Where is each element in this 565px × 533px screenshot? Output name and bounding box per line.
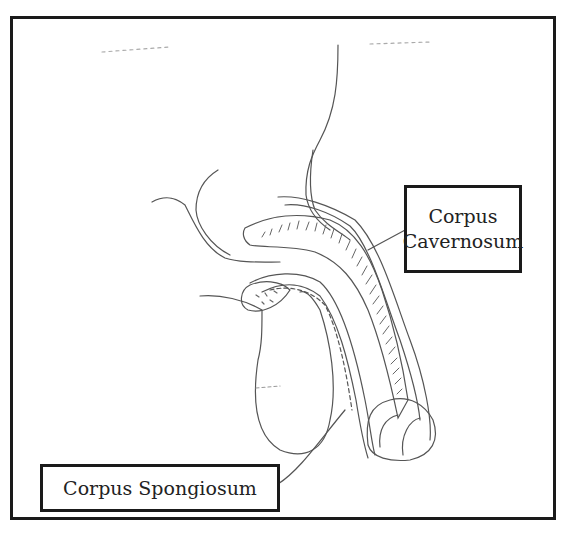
corpus-cavernosum-label: Corpus Cavernosum xyxy=(404,185,522,273)
cavernosum-leader-line xyxy=(368,229,407,250)
corpus-spongiosum-label-text: Corpus Spongiosum xyxy=(63,477,257,499)
spongiosum-leader-line xyxy=(278,410,345,484)
corpus-cavernosum-label-line1: Corpus xyxy=(428,204,497,229)
corpus-cavernosum-label-line2: Cavernosum xyxy=(403,229,524,254)
corpus-cavernosum-shape xyxy=(243,216,408,418)
corpus-spongiosum-label: Corpus Spongiosum xyxy=(40,464,280,512)
abdominal-wall-line xyxy=(306,45,338,230)
